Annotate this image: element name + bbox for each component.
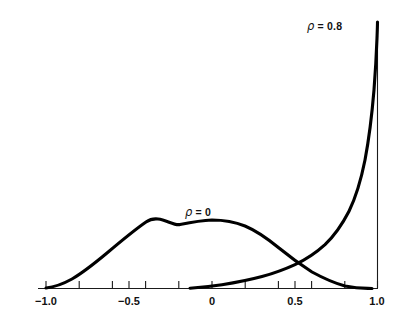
tick-label-1-0: 1.0 <box>369 295 385 307</box>
annotation-rho-0-text: = 0 <box>193 206 212 218</box>
annotation-rho-0-8-text: = 0.8 <box>315 20 343 32</box>
annotation-rho-0-8: ρ = 0.8 <box>307 19 342 33</box>
annotation-rho-0: ρ = 0 <box>185 205 211 219</box>
figure-container: −1.0 −0.5 0 0.5 1.0 ρ = 0 ρ = 0.8 <box>0 0 419 327</box>
curve-rho-0 <box>46 219 372 289</box>
tick-label-minus-1-0: −1.0 <box>35 295 57 307</box>
rho-symbol-0: ρ <box>185 205 193 219</box>
rho-symbol-0-8: ρ <box>307 19 315 33</box>
curve-rho-0-8 <box>190 22 378 288</box>
tick-label-minus-0-5: −0.5 <box>118 295 140 307</box>
distribution-plot <box>0 0 419 327</box>
tick-label-0: 0 <box>209 295 215 307</box>
tick-label-0-5: 0.5 <box>287 295 303 307</box>
